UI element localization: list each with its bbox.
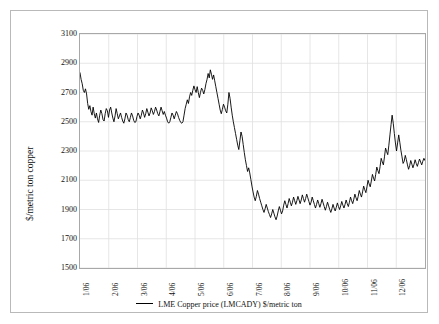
chart-frame: $/metric ton copper 31002900270025002300… bbox=[10, 10, 428, 313]
x-axis-tick: 7/06 bbox=[256, 283, 264, 296]
y-axis-tick-labels: 310029002700250023002100190017001500 bbox=[37, 33, 77, 269]
y-axis-tick: 1900 bbox=[43, 206, 77, 214]
y-axis-tick: 1500 bbox=[43, 264, 77, 272]
series-line-svg bbox=[80, 34, 425, 268]
x-axis-tick: 11/06 bbox=[371, 279, 379, 296]
y-axis-tick: 1700 bbox=[43, 235, 77, 243]
chart-legend: LME Copper price (LMCADY) $/metric ton bbox=[11, 299, 427, 309]
y-axis-tick: 2700 bbox=[43, 89, 77, 97]
y-axis-tick: 3100 bbox=[43, 30, 77, 38]
legend-entry: LME Copper price (LMCADY) $/metric ton bbox=[136, 300, 301, 309]
x-axis-tick: 2/06 bbox=[112, 283, 120, 296]
x-axis-tick: 3/06 bbox=[141, 283, 149, 296]
x-axis-tick-labels: 1/062/063/064/065/066/067/068/069/0610/0… bbox=[79, 270, 426, 300]
gridlines bbox=[80, 34, 425, 268]
y-axis-title-text: $/metric ton copper bbox=[25, 147, 35, 221]
legend-label: LME Copper price (LMCADY) $/metric ton bbox=[158, 300, 301, 309]
x-axis-tick: 6/06 bbox=[227, 283, 235, 296]
x-axis-tick: 12/06 bbox=[399, 279, 407, 296]
x-axis-tick: 9/06 bbox=[313, 283, 321, 296]
x-axis-tick: 10/06 bbox=[342, 279, 350, 296]
y-axis-tick: 2300 bbox=[43, 147, 77, 155]
x-axis-tick: 1/06 bbox=[83, 283, 91, 296]
y-axis-tick: 2900 bbox=[43, 59, 77, 67]
y-axis-tick: 2100 bbox=[43, 176, 77, 184]
x-axis-tick: 4/06 bbox=[169, 283, 177, 296]
x-axis-tick: 8/06 bbox=[284, 283, 292, 296]
legend-line-swatch bbox=[136, 303, 153, 304]
x-axis-tick: 5/06 bbox=[198, 283, 206, 296]
y-axis-tick: 2500 bbox=[43, 118, 77, 126]
plot-area bbox=[79, 33, 426, 269]
